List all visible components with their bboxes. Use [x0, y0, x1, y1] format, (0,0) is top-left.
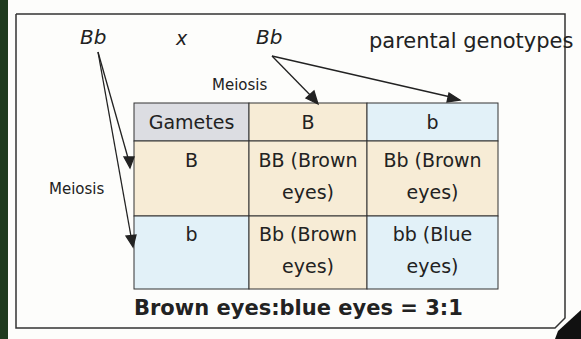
cell-line: eyes): [367, 176, 498, 208]
cell-Bb-top: Bb (Brown eyes): [367, 144, 498, 208]
row-header-B: B: [134, 144, 249, 176]
cell-line: BB (Brown: [249, 144, 367, 176]
column-header-b: b: [367, 106, 498, 138]
cell-BB: BB (Brown eyes): [249, 144, 367, 208]
cell-line: Bb (Brown: [249, 218, 367, 250]
cell-line: eyes): [249, 250, 367, 282]
gametes-corner-cell: Gametes: [134, 106, 249, 138]
parental-genotypes-caption: parental genotypes: [369, 29, 573, 53]
cell-bb: bb (Blue eyes): [367, 218, 498, 282]
cell-line: eyes): [367, 250, 498, 282]
parent1-genotype: Bb: [80, 25, 106, 49]
row-header-b: b: [134, 218, 249, 250]
parent2-genotype: Bb: [256, 25, 282, 49]
cell-Bb-bottom: Bb (Brown eyes): [249, 218, 367, 282]
cross-symbol: x: [176, 27, 187, 49]
meiosis-label-left: Meiosis: [49, 180, 104, 198]
cell-line: eyes): [249, 176, 367, 208]
column-header-B: B: [249, 106, 367, 138]
cell-line: bb (Blue: [367, 218, 498, 250]
cell-line: Bb (Brown: [367, 144, 498, 176]
ratio-result: Brown eyes:blue eyes = 3:1: [134, 296, 463, 320]
meiosis-label-top: Meiosis: [212, 76, 267, 94]
